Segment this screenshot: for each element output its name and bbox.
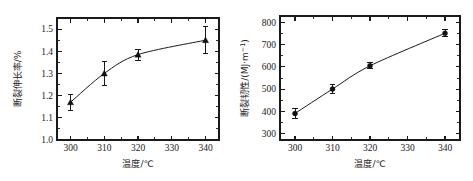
data-point-marker bbox=[330, 87, 335, 92]
data-point-marker bbox=[202, 37, 208, 43]
y-axis-title: 断裂伸长率/% bbox=[12, 50, 23, 107]
chart-panel-toughness: 300310320330340300400500600700800温度/℃断裂韧… bbox=[236, 0, 473, 181]
data-point-marker bbox=[293, 111, 298, 116]
x-tick-label: 320 bbox=[363, 143, 378, 153]
y-tick-label: 1.0 bbox=[41, 135, 53, 145]
plot-frame bbox=[57, 18, 219, 140]
two-panel-figure: 3003103203303401.01.11.21.31.41.5温度/℃断裂伸… bbox=[0, 0, 473, 181]
x-tick-label: 300 bbox=[288, 143, 303, 153]
y-tick-label: 300 bbox=[262, 129, 277, 139]
y-tick-label: 700 bbox=[262, 40, 277, 50]
toughness-chart-svg: 300310320330340300400500600700800温度/℃断裂韧… bbox=[236, 0, 473, 181]
y-tick-label: 500 bbox=[262, 84, 277, 94]
plot-frame bbox=[280, 16, 460, 140]
y-axis-title: 断裂韧性/(MJ·m−1) bbox=[239, 39, 250, 117]
y-axis-title-main: 断裂韧性/(MJ·m bbox=[239, 52, 250, 117]
y-tick-label: 400 bbox=[262, 107, 277, 117]
elongation-chart-svg: 3003103203303401.01.11.21.31.41.5温度/℃断裂伸… bbox=[0, 0, 236, 181]
y-tick-label: 600 bbox=[262, 62, 277, 72]
x-tick-label: 310 bbox=[325, 143, 340, 153]
x-tick-label: 330 bbox=[400, 143, 415, 153]
chart-panel-elongation: 3003103203303401.01.11.21.31.41.5温度/℃断裂伸… bbox=[0, 0, 236, 181]
y-tick-label: 1.2 bbox=[41, 91, 53, 101]
y-tick-label: 1.5 bbox=[41, 24, 53, 34]
y-tick-label: 1.4 bbox=[41, 47, 53, 57]
x-axis-title: 温度/℃ bbox=[354, 158, 385, 169]
y-tick-label: 800 bbox=[262, 18, 277, 28]
x-tick-label: 310 bbox=[97, 143, 112, 153]
data-series-line bbox=[295, 33, 445, 113]
y-axis-title-tail: ) bbox=[240, 39, 250, 43]
x-tick-label: 340 bbox=[198, 143, 213, 153]
x-tick-label: 300 bbox=[63, 143, 78, 153]
x-tick-label: 340 bbox=[438, 143, 453, 153]
x-axis-title: 温度/℃ bbox=[122, 158, 153, 169]
data-point-marker bbox=[368, 63, 373, 68]
data-point-marker bbox=[443, 31, 448, 36]
x-tick-label: 320 bbox=[131, 143, 146, 153]
data-point-marker bbox=[101, 70, 107, 76]
y-tick-label: 1.1 bbox=[41, 113, 53, 123]
y-axis-title-superscript: −1 bbox=[239, 43, 247, 53]
x-tick-label: 330 bbox=[165, 143, 180, 153]
y-tick-label: 1.3 bbox=[41, 69, 53, 79]
